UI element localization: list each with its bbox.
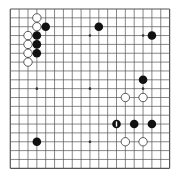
black-stone[interactable] [130,120,139,129]
go-board[interactable] [0,0,176,181]
white-stone[interactable] [121,93,129,101]
white-stone[interactable] [24,31,32,39]
black-stone[interactable] [41,22,50,31]
black-stone[interactable] [95,22,104,31]
black-stone[interactable] [33,137,42,146]
star-point [89,87,92,90]
white-stone[interactable] [139,93,147,101]
black-stone[interactable] [148,31,157,40]
black-stone[interactable] [139,76,148,85]
star-point [89,140,92,143]
star-point [89,34,92,37]
last-move-marker [116,121,117,126]
black-stone[interactable] [33,40,42,49]
star-point [142,34,145,37]
white-stone[interactable] [121,138,129,146]
white-stone[interactable] [24,40,32,48]
star-point [36,87,39,90]
white-stone[interactable] [139,138,147,146]
white-stone[interactable] [33,14,41,22]
black-stone[interactable] [33,49,42,58]
star-point [142,87,145,90]
white-stone[interactable] [24,58,32,66]
black-stone[interactable] [33,31,42,40]
white-stone[interactable] [24,49,32,57]
black-stone[interactable] [148,120,157,129]
white-stone[interactable] [33,23,41,31]
